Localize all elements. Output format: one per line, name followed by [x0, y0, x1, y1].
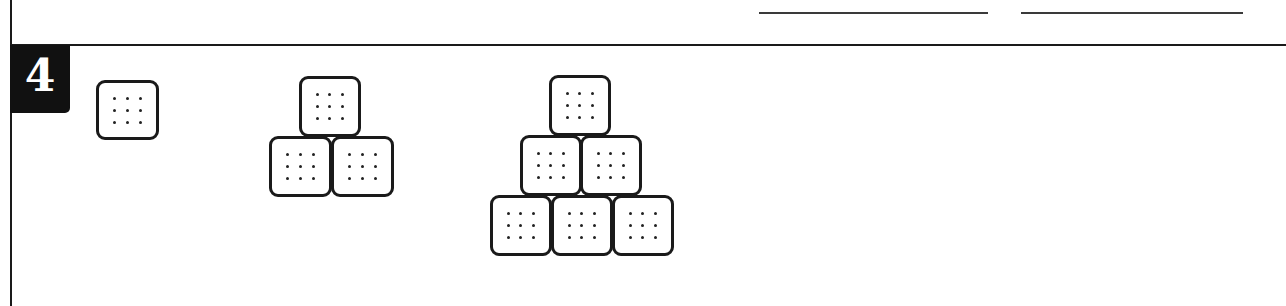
dot-icon [126, 97, 129, 100]
dot-icon [532, 236, 535, 239]
dot-icon [348, 153, 351, 156]
cracker-icon [96, 80, 159, 140]
dot-icon [341, 117, 344, 120]
dot-icon [519, 224, 522, 227]
dot-icon [519, 212, 522, 215]
cracker-dots [108, 92, 147, 128]
cracker-dots [311, 88, 349, 125]
dot-icon [286, 153, 289, 156]
dot-icon [580, 224, 583, 227]
dot-icon [597, 176, 600, 179]
cracker-icon [299, 76, 361, 137]
problem-number: 4 [25, 46, 56, 106]
dot-icon [591, 116, 594, 119]
cracker-dots [343, 148, 382, 185]
dot-icon [593, 236, 596, 239]
dot-icon [629, 212, 632, 215]
dot-icon [641, 236, 644, 239]
dot-icon [299, 177, 302, 180]
dot-icon [139, 109, 142, 112]
dot-icon [593, 224, 596, 227]
dot-icon [361, 165, 364, 168]
dot-icon [629, 236, 632, 239]
dot-icon [328, 117, 331, 120]
cracker-dots [502, 207, 540, 244]
cracker-icon [551, 195, 613, 256]
cracker-icon [549, 75, 611, 136]
dot-icon [286, 165, 289, 168]
dot-icon [507, 212, 510, 215]
dot-icon [537, 176, 540, 179]
answer-line-1[interactable] [759, 12, 988, 14]
dot-icon [562, 176, 565, 179]
dot-icon [316, 93, 319, 96]
dot-icon [312, 177, 315, 180]
dot-icon [537, 152, 540, 155]
dot-icon [597, 164, 600, 167]
dot-icon [566, 104, 569, 107]
dot-icon [361, 153, 364, 156]
dot-icon [328, 93, 331, 96]
dot-icon [519, 236, 522, 239]
section-divider [10, 44, 1286, 46]
dot-icon [580, 236, 583, 239]
dot-icon [622, 164, 625, 167]
dot-icon [316, 105, 319, 108]
dot-icon [641, 224, 644, 227]
dot-icon [549, 152, 552, 155]
dot-icon [299, 165, 302, 168]
dot-icon [139, 97, 142, 100]
dot-icon [113, 121, 116, 124]
dot-icon [654, 236, 657, 239]
cracker-dots [532, 147, 570, 184]
cracker-icon [520, 135, 582, 196]
dot-icon [591, 92, 594, 95]
dot-icon [374, 177, 377, 180]
dot-icon [609, 176, 612, 179]
dot-icon [609, 152, 612, 155]
answer-line-2[interactable] [1021, 12, 1243, 14]
dot-icon [597, 152, 600, 155]
cracker-icon [269, 136, 332, 197]
dot-icon [341, 93, 344, 96]
dot-icon [328, 105, 331, 108]
dot-icon [316, 117, 319, 120]
dot-icon [566, 92, 569, 95]
dot-icon [537, 164, 540, 167]
dot-icon [312, 165, 315, 168]
dot-icon [507, 236, 510, 239]
dot-icon [609, 164, 612, 167]
dot-icon [578, 104, 581, 107]
dot-icon [341, 105, 344, 108]
dot-icon [568, 212, 571, 215]
cracker-dots [281, 148, 320, 185]
cracker-icon [331, 136, 394, 197]
dot-icon [654, 224, 657, 227]
cracker-dots [563, 207, 601, 244]
cracker-icon [580, 135, 642, 196]
cracker-dots [561, 87, 599, 124]
dot-icon [654, 212, 657, 215]
dot-icon [113, 97, 116, 100]
cracker-icon [490, 195, 552, 256]
dot-icon [348, 165, 351, 168]
dot-icon [622, 152, 625, 155]
dot-icon [126, 121, 129, 124]
dot-icon [374, 153, 377, 156]
problem-number-badge: 4 [10, 45, 70, 113]
dot-icon [374, 165, 377, 168]
dot-icon [641, 212, 644, 215]
dot-icon [286, 177, 289, 180]
dot-icon [299, 153, 302, 156]
dot-icon [549, 164, 552, 167]
cracker-dots [624, 207, 662, 244]
dot-icon [622, 176, 625, 179]
dot-icon [126, 109, 129, 112]
cracker-icon [612, 195, 674, 256]
dot-icon [532, 224, 535, 227]
dot-icon [139, 121, 142, 124]
dot-icon [580, 212, 583, 215]
dot-icon [566, 116, 569, 119]
dot-icon [113, 109, 116, 112]
dot-icon [348, 177, 351, 180]
